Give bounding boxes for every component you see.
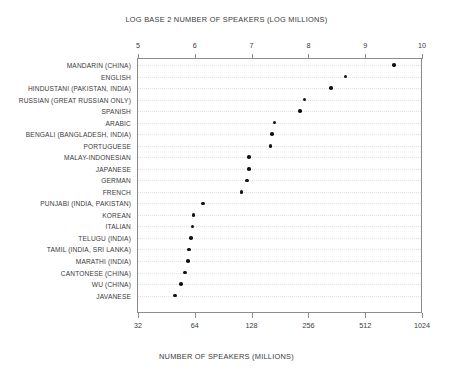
gridline xyxy=(138,203,421,204)
data-point xyxy=(240,190,244,194)
gridline xyxy=(138,77,421,78)
x-tick-label-top: 5 xyxy=(136,41,140,50)
category-label: HINDUSTANI (PAKISTAN, INDIA) xyxy=(0,85,136,92)
gridline xyxy=(138,134,421,135)
x-tick-label-bottom: 256 xyxy=(302,321,314,330)
category-label: WU (CHINA) xyxy=(0,281,136,288)
gridline xyxy=(138,296,421,297)
x-tick-label-top: 6 xyxy=(193,41,197,50)
x-tick-label-bottom: 1024 xyxy=(414,321,430,330)
x-tick-label-bottom: 128 xyxy=(246,321,258,330)
category-label: JAVANESE xyxy=(0,292,136,299)
category-label: ITALIAN xyxy=(0,223,136,230)
data-point xyxy=(173,294,177,298)
x-tick-bottom xyxy=(422,313,423,318)
data-point xyxy=(179,282,183,286)
x-tick-bottom xyxy=(308,313,309,318)
gridline xyxy=(138,238,421,239)
category-label: JAPANESE xyxy=(0,165,136,172)
category-label: PUNJABI (INDIA, PAKISTAN) xyxy=(0,200,136,207)
category-label: MANDARIN (CHINA) xyxy=(0,62,136,69)
x-tick-bottom xyxy=(365,313,366,318)
data-point xyxy=(247,167,251,171)
x-tick-bottom xyxy=(252,313,253,318)
chart-figure: LOG BASE 2 NUMBER OF SPEAKERS (LOG MILLI… xyxy=(0,0,453,374)
data-point xyxy=(245,179,249,183)
gridline xyxy=(138,249,421,250)
data-point xyxy=(392,63,396,67)
chart-top-axis-title: LOG BASE 2 NUMBER OF SPEAKERS (LOG MILLI… xyxy=(0,15,453,24)
category-label: MARATHI (INDIA) xyxy=(0,258,136,265)
data-point xyxy=(247,155,251,159)
data-point xyxy=(273,121,277,125)
x-tick-label-bottom: 512 xyxy=(359,321,371,330)
x-tick-label-top: 9 xyxy=(363,41,367,50)
gridline xyxy=(138,100,421,101)
category-label: TAMIL (INDIA, SRI LANKA) xyxy=(0,246,136,253)
data-point xyxy=(189,236,193,240)
data-point xyxy=(303,98,307,102)
category-label: MALAY-INDONESIAN xyxy=(0,154,136,161)
data-point xyxy=(270,132,274,136)
category-label: FRENCH xyxy=(0,188,136,195)
x-tick-bottom xyxy=(195,313,196,318)
gridline xyxy=(138,261,421,262)
data-point xyxy=(298,109,302,113)
category-label: BENGALI (BANGLADESH, INDIA) xyxy=(0,131,136,138)
x-tick-top xyxy=(252,54,253,59)
x-tick-top xyxy=(195,54,196,59)
chart-bottom-axis-title: NUMBER OF SPEAKERS (MILLIONS) xyxy=(0,352,453,361)
gridline xyxy=(138,192,421,193)
data-point xyxy=(183,271,187,275)
category-label: CANTONESE (CHINA) xyxy=(0,269,136,276)
x-tick-label-top: 10 xyxy=(418,41,426,50)
data-point xyxy=(191,225,195,229)
category-label: ARABIC xyxy=(0,119,136,126)
data-point xyxy=(329,86,333,90)
gridline xyxy=(138,180,421,181)
data-point xyxy=(201,202,205,206)
plot-area: 532664712882569512101024MANDARIN (CHINA)… xyxy=(137,58,422,313)
data-point xyxy=(187,248,191,252)
gridline xyxy=(138,111,421,112)
gridline xyxy=(138,273,421,274)
gridline xyxy=(138,65,421,66)
gridline xyxy=(138,146,421,147)
x-tick-label-top: 8 xyxy=(306,41,310,50)
gridline xyxy=(138,157,421,158)
category-label: RUSSIAN (GREAT RUSSIAN ONLY) xyxy=(0,96,136,103)
x-tick-label-top: 7 xyxy=(250,41,254,50)
gridline xyxy=(138,88,421,89)
category-label: PORTUGUESE xyxy=(0,142,136,149)
gridline xyxy=(138,226,421,227)
gridline xyxy=(138,169,421,170)
category-label: ENGLISH xyxy=(0,73,136,80)
x-tick-top xyxy=(365,54,366,59)
x-tick-label-bottom: 64 xyxy=(191,321,199,330)
gridline xyxy=(138,123,421,124)
category-label: SPANISH xyxy=(0,108,136,115)
data-point xyxy=(344,75,348,79)
category-label: KOREAN xyxy=(0,211,136,218)
data-point xyxy=(269,144,273,148)
x-tick-top xyxy=(138,54,139,59)
data-point xyxy=(186,259,190,263)
category-label: GERMAN xyxy=(0,177,136,184)
data-point xyxy=(192,213,196,217)
x-tick-label-bottom: 32 xyxy=(134,321,142,330)
x-tick-top xyxy=(308,54,309,59)
gridline xyxy=(138,215,421,216)
x-tick-top xyxy=(422,54,423,59)
category-label: TELUGU (INDIA) xyxy=(0,234,136,241)
x-tick-bottom xyxy=(138,313,139,318)
